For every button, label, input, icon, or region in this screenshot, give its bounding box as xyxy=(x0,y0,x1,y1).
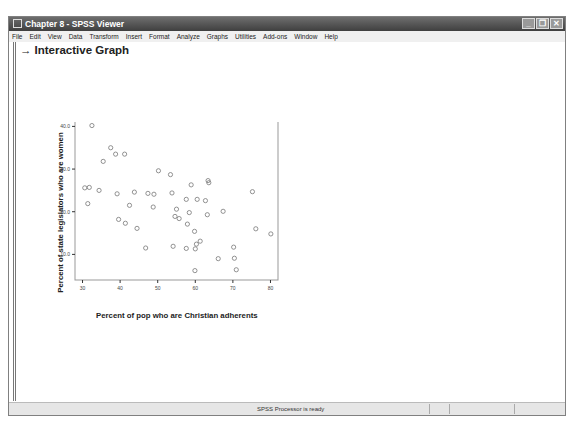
app-icon xyxy=(13,19,22,28)
arrow-icon: → xyxy=(20,44,32,56)
menu-data[interactable]: Data xyxy=(69,31,83,42)
svg-text:30: 30 xyxy=(80,285,86,291)
menu-graphs[interactable]: Graphs xyxy=(207,31,228,42)
restore-button[interactable]: ❐ xyxy=(536,18,549,29)
svg-text:40: 40 xyxy=(117,285,123,291)
close-button[interactable]: ✕ xyxy=(550,18,563,29)
menu-view[interactable]: View xyxy=(48,31,62,42)
menu-window[interactable]: Window xyxy=(294,31,317,42)
status-message: SPSS Processor is ready xyxy=(257,403,324,415)
svg-text:70: 70 xyxy=(230,285,236,291)
menu-utilities[interactable]: Utilities xyxy=(235,31,256,42)
svg-text:80: 80 xyxy=(268,285,274,291)
svg-text:40.0: 40.0 xyxy=(60,123,70,129)
svg-text:20.0: 20.0 xyxy=(60,209,70,215)
spss-viewer-window: Chapter 8 - SPSS Viewer _ ❐ ✕ File Edit … xyxy=(8,16,566,416)
x-axis-label: Percent of pop who are Christian adheren… xyxy=(96,311,258,320)
menu-transform[interactable]: Transform xyxy=(89,31,118,42)
menu-addons[interactable]: Add-ons xyxy=(263,31,287,42)
output-heading[interactable]: →Interactive Graph xyxy=(20,44,129,56)
menu-help[interactable]: Help xyxy=(324,31,337,42)
status-divider xyxy=(514,404,515,414)
menu-format[interactable]: Format xyxy=(149,31,170,42)
plot-area: 30405060708010.020.030.040.0 xyxy=(38,122,288,312)
scatter-chart[interactable]: Percent of state legislators who are wom… xyxy=(38,122,288,327)
status-divider xyxy=(429,404,430,414)
menu-insert[interactable]: Insert xyxy=(126,31,142,42)
svg-text:60: 60 xyxy=(193,285,199,291)
minimize-button[interactable]: _ xyxy=(522,18,535,29)
heading-text: Interactive Graph xyxy=(35,44,130,56)
window-title: Chapter 8 - SPSS Viewer xyxy=(25,19,124,29)
title-bar[interactable]: Chapter 8 - SPSS Viewer _ ❐ ✕ xyxy=(9,17,565,31)
status-bar: SPSS Processor is ready xyxy=(9,402,565,415)
svg-text:10.0: 10.0 xyxy=(60,251,70,257)
status-divider xyxy=(449,404,450,414)
svg-text:50: 50 xyxy=(155,285,161,291)
menu-file[interactable]: File xyxy=(12,31,22,42)
menu-analyze[interactable]: Analyze xyxy=(177,31,200,42)
menu-edit[interactable]: Edit xyxy=(29,31,40,42)
output-pane: →Interactive Graph Percent of state legi… xyxy=(13,42,565,401)
svg-text:30.0: 30.0 xyxy=(60,166,70,172)
menu-bar: File Edit View Data Transform Insert For… xyxy=(9,31,565,42)
